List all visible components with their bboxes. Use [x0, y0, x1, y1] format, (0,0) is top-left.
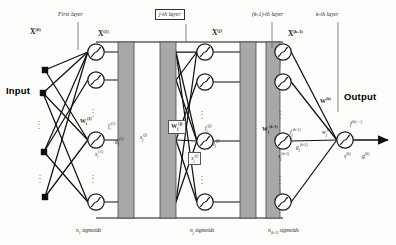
signal-label-sj: sj(j) — [188, 152, 201, 165]
sigmoid-neuron — [197, 133, 213, 149]
output-neuron — [337, 132, 353, 148]
sigmoid-count-nj: nj sigmoids — [190, 228, 214, 236]
weight-label-wk: W(k) — [320, 97, 331, 105]
connection-edge — [291, 140, 337, 141]
layer-tag-jth: j-th layer — [155, 9, 185, 20]
layer-tag-first: First layer — [58, 12, 83, 18]
signal-label-s1: si(1) — [95, 150, 103, 159]
sigmoid-neuron — [275, 44, 291, 60]
separator-bar — [118, 42, 134, 218]
signal-label-sk: s(k) — [344, 152, 351, 159]
signal-label-sk1: sj(k-1) — [278, 152, 289, 161]
weight-label-wk1: Wj(k-1) — [262, 125, 278, 134]
sigmoid-neuron — [88, 44, 104, 60]
sigmoid-neuron — [88, 72, 104, 88]
layer-separator-bars — [118, 42, 280, 218]
signal-label-g1: gi(1) — [115, 137, 124, 146]
input-node — [42, 67, 48, 73]
sigmoid-neuron — [197, 74, 213, 90]
layer-tag-k_minus_1: (k-1)-th layer — [252, 12, 283, 18]
signal-label-fk1: fj(k-1) — [290, 128, 300, 137]
x-label-x0: X(0) — [30, 28, 41, 36]
connection-edge — [43, 52, 88, 93]
connection-edge — [43, 93, 88, 202]
layer-tag-kth: k-th layer — [316, 12, 339, 18]
weight-label-wj: Wj(j) — [168, 120, 186, 134]
x-label-xk1: X(k-1) — [288, 30, 303, 38]
input-node — [42, 194, 48, 200]
input-nodes — [40, 67, 48, 200]
vertical-ellipsis: ... — [39, 172, 41, 182]
output-label: Output — [344, 92, 376, 102]
network-diagram-svg — [0, 0, 396, 245]
signal-label-fk: f(k) = f — [350, 120, 362, 127]
connection-edge — [176, 140, 197, 141]
sigmoid-neuron — [88, 132, 104, 148]
vertical-ellipsis: ... — [201, 108, 203, 118]
sigmoid-count-n1: n1 sigmoids — [76, 228, 101, 236]
sigmoid-neuron — [88, 194, 104, 210]
signal-label-sj_in: sj(j) — [140, 133, 147, 142]
signal-label-gk: g(k) — [362, 152, 369, 159]
sigmoid-neuron — [197, 194, 213, 210]
vertical-ellipsis: ... — [279, 108, 281, 118]
weight-label-w1: Wi(1) — [80, 117, 92, 126]
vertical-ellipsis: ... — [38, 118, 40, 128]
input-node — [40, 90, 46, 96]
signal-label-wjk: wj(k) — [322, 128, 331, 137]
sigmoid-neuron — [275, 74, 291, 90]
connection-edge — [45, 70, 88, 140]
signal-label-gj: gj(j) — [212, 139, 220, 148]
signal-label-gk1: gj(k-1) — [296, 143, 308, 152]
input-node — [41, 149, 47, 155]
sigmoid-neuron — [275, 194, 291, 210]
vertical-ellipsis: ... — [279, 173, 281, 183]
figure-canvas: First layerj-th layer(k-1)-th layerk-th … — [0, 0, 396, 245]
x-label-xj: X(j) — [212, 29, 222, 37]
input-label: Input — [6, 86, 30, 96]
vertical-ellipsis: ... — [92, 172, 94, 182]
x-label-x1: X(1) — [98, 30, 109, 38]
connection-edge — [44, 80, 88, 152]
signal-label-f1: fi(1) — [108, 122, 115, 131]
vertical-ellipsis: ... — [201, 173, 203, 183]
separator-bar — [240, 42, 256, 218]
sigmoid-neuron — [197, 44, 213, 60]
signal-label-fj: fj(j) — [205, 124, 211, 133]
sigmoid-neuron — [275, 133, 291, 149]
sigmoid-count-nk1: n(k-1) sigmoids — [268, 228, 299, 236]
vertical-ellipsis: ... — [92, 106, 94, 116]
